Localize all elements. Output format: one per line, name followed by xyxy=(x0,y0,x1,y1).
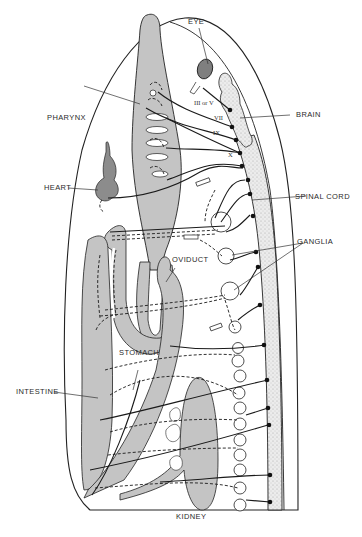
label-oviduct: OVIDUCT xyxy=(172,256,209,264)
label-nerve-IX: IX xyxy=(213,130,220,137)
eye-muscle xyxy=(190,82,200,94)
label-nerve-X: X xyxy=(228,152,233,159)
gill-slit xyxy=(146,154,168,161)
label-pharynx: PHARYNX xyxy=(47,114,86,122)
label-stomach: STOMACH xyxy=(119,349,159,357)
eye xyxy=(195,57,215,80)
label-spinal-cord: SPINAL CORD xyxy=(295,193,350,201)
label-brain: BRAIN xyxy=(296,111,321,119)
gill-slit xyxy=(146,140,168,147)
gill-slit xyxy=(152,171,168,177)
label-kidney: KIDNEY xyxy=(176,513,206,521)
kidney-hole xyxy=(166,424,181,441)
gill-slit xyxy=(146,127,168,134)
kidney-hole xyxy=(170,456,183,471)
label-nerve-VII: VII xyxy=(214,115,223,122)
label-nerve-III-or-V: III or V xyxy=(194,100,214,107)
label-heart: HEART xyxy=(44,184,71,192)
label-eye: EYE xyxy=(188,18,204,26)
kidney-hole xyxy=(170,408,181,422)
intestine xyxy=(82,236,113,490)
spiracle xyxy=(150,90,156,96)
label-ganglia: GANGLIA xyxy=(297,238,333,246)
heart xyxy=(96,142,119,201)
label-intestine: INTESTINE xyxy=(16,388,59,396)
nervous-system-diagram xyxy=(0,0,362,537)
